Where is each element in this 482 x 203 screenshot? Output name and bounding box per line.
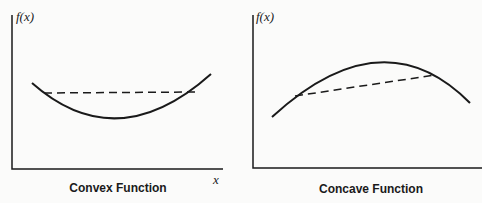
convex-panel — [12, 15, 223, 169]
concave-chord — [295, 75, 435, 96]
convex-caption: Convex Function — [38, 181, 198, 195]
concave-axes — [253, 15, 482, 168]
convex-curve — [32, 74, 211, 118]
convex-chord — [44, 92, 195, 93]
concave-curve — [272, 62, 470, 117]
concave-caption: Concave Function — [291, 182, 451, 196]
figure: f(x) x Convex Function f(x) Concave Func… — [0, 0, 482, 203]
concave-panel — [253, 15, 482, 168]
convex-x-label: x — [213, 172, 219, 188]
diagram-canvas — [0, 0, 482, 203]
convex-y-label: f(x) — [16, 9, 34, 25]
concave-y-label: f(x) — [256, 9, 274, 25]
